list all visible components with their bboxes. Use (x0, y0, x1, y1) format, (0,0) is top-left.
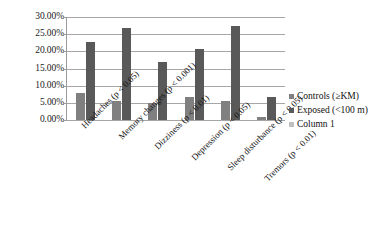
bar-chart: 30.00%25.00%20.00%15.00%10.00%5.00%0.00%… (0, 0, 390, 249)
legend-label: Exposed (<100 m) (297, 106, 368, 116)
x-axis-label: Tremors (p < 0.01) (263, 128, 318, 183)
legend-label: Controls (≥KM) (297, 92, 359, 102)
bar-group (249, 17, 285, 120)
y-axis-tick-label: 15.00% (4, 64, 64, 74)
legend: Controls (≥KM)Exposed (<100 m)Column 1 (289, 90, 389, 132)
y-axis-tick-label: 10.00% (4, 81, 64, 91)
legend-swatch-icon (289, 108, 294, 113)
legend-item[interactable]: Controls (≥KM) (289, 90, 389, 103)
legend-swatch-icon (289, 94, 294, 99)
legend-label: Column 1 (297, 120, 335, 130)
y-axis-tick-label: 5.00% (4, 98, 64, 108)
y-axis-tick-label: 20.00% (4, 46, 64, 56)
x-axis-labels: Headaches (p < 0.05)Memory changes (p < … (0, 120, 390, 249)
bar (76, 93, 85, 120)
legend-swatch-icon (289, 122, 294, 127)
y-axis-tick-label: 30.00% (4, 12, 64, 22)
legend-item[interactable]: Exposed (<100 m) (289, 104, 389, 117)
y-axis-tick-label: 25.00% (4, 29, 64, 39)
legend-item[interactable]: Column 1 (289, 118, 389, 131)
bar (112, 101, 121, 120)
